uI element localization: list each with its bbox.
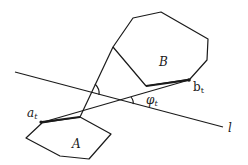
label-angle-phi: φt xyxy=(146,94,158,108)
polygon-b-bottom-edge xyxy=(146,80,189,86)
polygon-b xyxy=(113,12,208,86)
label-line-l: l xyxy=(228,122,232,134)
polygon-a-top-edge xyxy=(42,117,80,122)
point-a-t xyxy=(39,120,42,123)
label-point-b-t: bt xyxy=(193,81,204,95)
geometry-figure xyxy=(0,0,248,165)
label-point-a-t: at xyxy=(27,107,37,121)
tangent-line-ab xyxy=(40,80,189,123)
label-polygon-a: A xyxy=(72,138,81,150)
label-polygon-b: B xyxy=(159,56,168,68)
line-l xyxy=(15,72,223,127)
point-b-t xyxy=(187,78,191,82)
diagram-canvas: B A l bt at φt xyxy=(0,0,248,165)
polygon-a xyxy=(26,117,111,159)
